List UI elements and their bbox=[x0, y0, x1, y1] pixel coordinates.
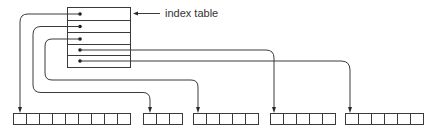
block-cell bbox=[271, 114, 284, 125]
block-1 bbox=[14, 114, 131, 125]
block-cell bbox=[27, 114, 40, 125]
arrow-down-icon bbox=[348, 107, 352, 113]
block-cell bbox=[92, 114, 105, 125]
index-table bbox=[68, 8, 131, 68]
index-table-callout: index table bbox=[133, 7, 218, 19]
block-cell bbox=[144, 114, 157, 125]
block-cell bbox=[40, 114, 53, 125]
block-cell bbox=[194, 114, 207, 125]
block-cell bbox=[79, 114, 92, 125]
block-cell bbox=[220, 114, 233, 125]
arrow-down-icon bbox=[272, 107, 276, 113]
block-cell bbox=[398, 114, 411, 125]
index-table-label: index table bbox=[165, 7, 218, 19]
block-cell bbox=[346, 114, 359, 125]
block-cell bbox=[411, 114, 424, 125]
block-2 bbox=[144, 114, 183, 125]
block-4 bbox=[271, 114, 336, 125]
arrow-down-icon bbox=[196, 107, 200, 113]
callout-arrow-icon bbox=[133, 12, 138, 16]
index-table-diagram: index table bbox=[0, 0, 433, 132]
block-cell bbox=[207, 114, 220, 125]
block-cell bbox=[53, 114, 66, 125]
arrow-down-icon bbox=[18, 107, 22, 113]
block-3 bbox=[194, 114, 259, 125]
block-cell bbox=[233, 114, 246, 125]
block-cell bbox=[157, 114, 170, 125]
block-cell bbox=[66, 114, 79, 125]
block-cell bbox=[105, 114, 118, 125]
index-table-frame bbox=[68, 8, 131, 68]
block-cell bbox=[118, 114, 131, 125]
block-cell bbox=[359, 114, 372, 125]
pointer-path-row-5 bbox=[80, 61, 350, 109]
block-cell bbox=[372, 114, 385, 125]
block-cell bbox=[170, 114, 183, 125]
block-cell bbox=[310, 114, 323, 125]
data-blocks bbox=[14, 114, 424, 125]
arrow-down-icon bbox=[148, 107, 152, 113]
block-cell bbox=[323, 114, 336, 125]
block-cell bbox=[246, 114, 259, 125]
block-5 bbox=[346, 114, 424, 125]
block-cell bbox=[14, 114, 27, 125]
block-cell bbox=[297, 114, 310, 125]
block-cell bbox=[284, 114, 297, 125]
block-cell bbox=[385, 114, 398, 125]
